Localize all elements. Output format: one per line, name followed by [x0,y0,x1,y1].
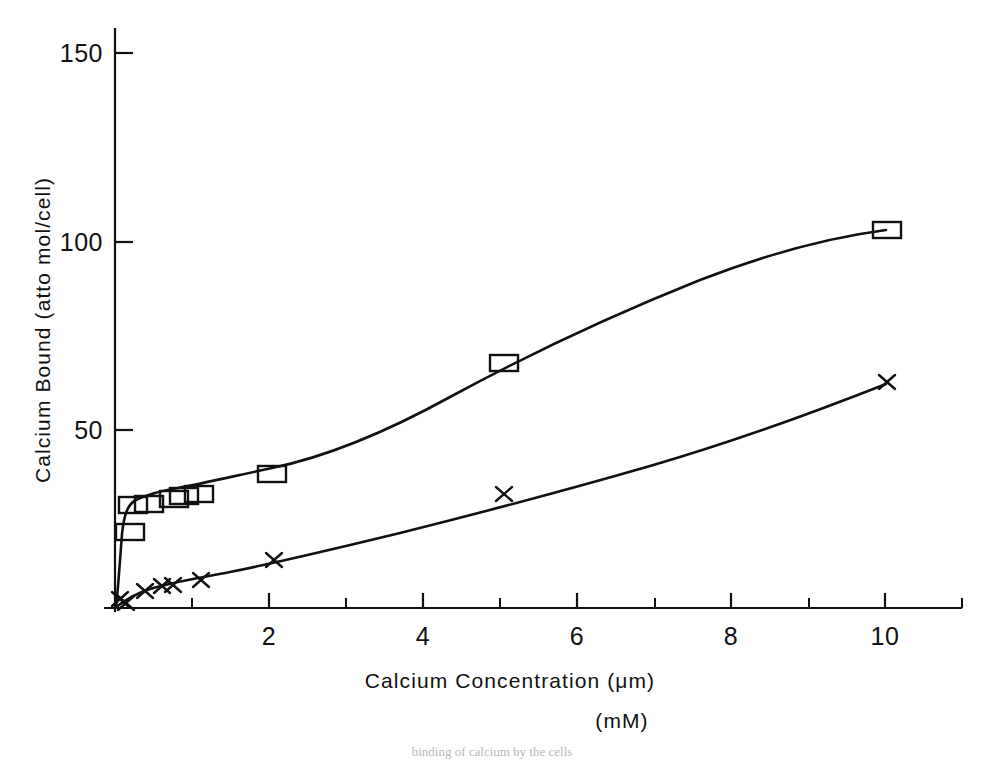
figure-container: 150 100 50 2 4 6 8 10 Calc [0,0,984,760]
x-marker [266,553,282,567]
x-marker [496,487,512,501]
x-marker [193,573,209,587]
x-tick-label-2: 2 [262,622,276,650]
square-marker [116,524,144,540]
cross-series-markers [112,375,895,610]
square-series-markers [116,222,901,540]
square-series-curve [116,230,886,607]
y-axis-title: Calcium Bound (atto mol/cell) [31,177,54,483]
y-tick-label-100: 100 [60,228,103,256]
x-axis-tick-labels: 2 4 6 8 10 [262,622,900,650]
axis-lines [104,28,962,612]
y-axis-tick-labels: 150 100 50 [60,39,103,444]
x-marker [879,375,895,389]
x-marker [137,584,153,598]
x-tick-label-10: 10 [871,622,900,650]
square-marker [119,497,147,513]
calcium-binding-chart: 150 100 50 2 4 6 8 10 Calc [0,0,984,760]
x-tick-label-8: 8 [724,622,738,650]
x-axis-ticks [192,593,962,608]
y-axis-ticks [115,53,133,430]
y-tick-label-50: 50 [74,416,103,444]
page-caption-fragment: binding of calcium by the cells [0,744,984,760]
x-axis-secondary-unit: (mM) [595,709,648,732]
x-tick-label-4: 4 [416,622,430,650]
y-tick-label-150: 150 [60,39,103,67]
x-axis-title: Calcium Concentration (μm) [365,669,655,692]
x-tick-label-6: 6 [570,622,584,650]
